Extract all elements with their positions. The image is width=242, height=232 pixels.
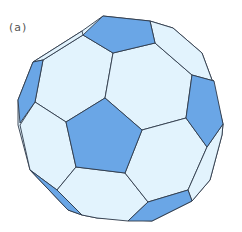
soccer-ball-diagram [0, 0, 242, 232]
